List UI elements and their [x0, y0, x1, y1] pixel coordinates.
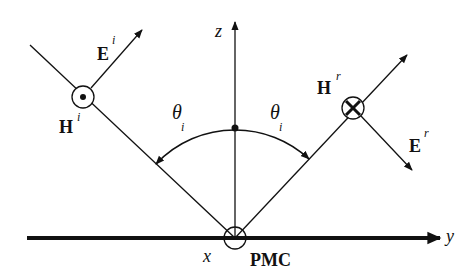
y-axis-label: y [444, 226, 454, 246]
e-incident-sup: i [112, 33, 115, 47]
h-reflected-label: H [317, 78, 331, 98]
z-axis-label: z [214, 21, 222, 41]
e-reflected-label: E [409, 136, 421, 156]
e-reflected-arrow [361, 116, 412, 170]
arc-center-dot [232, 125, 239, 132]
e-incident-label: E [97, 44, 109, 64]
h-incident-sup: i [77, 110, 80, 124]
pmc-reflection-diagram: z y x PMC E i H i H r E r θ i θ i [0, 0, 464, 279]
angle-arc-right [235, 130, 309, 159]
h-incident-label: H [59, 117, 73, 137]
theta-incident-sub: i [181, 120, 184, 134]
theta-reflected-sub: i [279, 120, 282, 134]
h-reflected-sup: r [336, 69, 341, 83]
x-axis-label: x [202, 246, 211, 266]
h-incident-dot-center [80, 94, 86, 100]
angle-arc [156, 130, 235, 164]
e-reflected-sup: r [424, 126, 429, 140]
pmc-label: PMC [250, 250, 291, 270]
incident-ray [30, 45, 235, 238]
